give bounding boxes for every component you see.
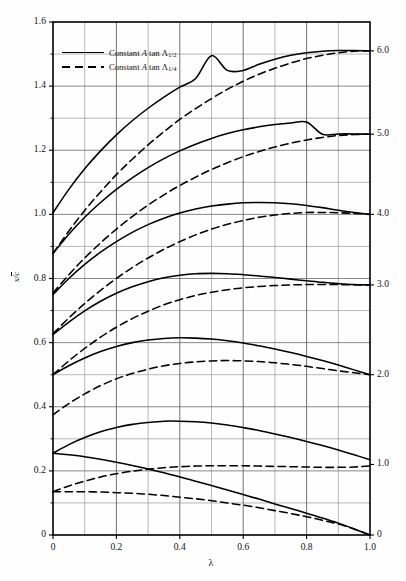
y-axis-title: x/c — [11, 265, 21, 289]
y-tick-label: 0 — [22, 529, 46, 539]
x-tick-label: 1.0 — [355, 542, 385, 552]
legend-subscript-half: 1/2 — [168, 51, 176, 58]
x-tick-label: 0.8 — [292, 542, 322, 552]
legend-item-dashed: Constant A tan Λ1/4 — [62, 60, 176, 74]
curve-parameter-label: 6.0 — [377, 45, 406, 55]
legend-label-solid: Constant A tan Λ1/2 — [109, 48, 176, 58]
legend-subscript-quarter: 1/4 — [168, 65, 176, 72]
chart-canvas — [0, 0, 406, 581]
x-tick-label: 0.4 — [165, 542, 195, 552]
y-tick-label: 0.6 — [22, 337, 46, 347]
y-tick-label: 0.4 — [22, 401, 46, 411]
legend-swatch-solid-line — [62, 48, 104, 58]
curve-parameter-label: 1.0 — [377, 458, 406, 468]
curve-parameter-label: 0 — [377, 529, 406, 539]
x-axis-title: λ — [191, 557, 231, 568]
legend-swatch-dashed-line — [62, 62, 104, 72]
x-tick-label: 0.2 — [101, 542, 131, 552]
curve-parameter-label: 4.0 — [377, 208, 406, 218]
y-tick-label: 1.4 — [22, 80, 46, 90]
y-tick-label: 1.2 — [22, 144, 46, 154]
curve-parameter-label: 3.0 — [377, 279, 406, 289]
x-tick-label: 0.6 — [228, 542, 258, 552]
x-tick-label: 0 — [38, 542, 68, 552]
chart-legend: Constant A tan Λ1/2 Constant A tan Λ1/4 — [62, 46, 176, 74]
legend-item-solid: Constant A tan Λ1/2 — [62, 46, 176, 60]
chart-figure: 00.20.40.60.81.01.21.41.6 00.20.40.60.81… — [0, 0, 406, 581]
legend-label-dashed: Constant A tan Λ1/4 — [109, 62, 176, 72]
y-tick-label: 0.8 — [22, 273, 46, 283]
y-tick-label: 1.0 — [22, 208, 46, 218]
y-tick-label: 1.6 — [22, 16, 46, 26]
curve-parameter-label: 2.0 — [377, 369, 406, 379]
y-tick-label: 0.2 — [22, 465, 46, 475]
curve-parameter-label: 5.0 — [377, 128, 406, 138]
